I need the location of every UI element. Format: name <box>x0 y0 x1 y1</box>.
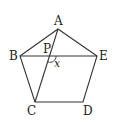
vertex-label-a: A <box>53 14 63 28</box>
vertex-label-d: D <box>83 104 93 118</box>
vertex-label-c: C <box>27 104 36 118</box>
vertex-label-b: B <box>9 49 18 63</box>
vertex-label-e: E <box>99 49 108 63</box>
angle-label-x: x <box>54 57 61 70</box>
pentagon-diagram: A B E C D P x <box>0 0 115 123</box>
intersection-label-p: P <box>43 42 51 56</box>
